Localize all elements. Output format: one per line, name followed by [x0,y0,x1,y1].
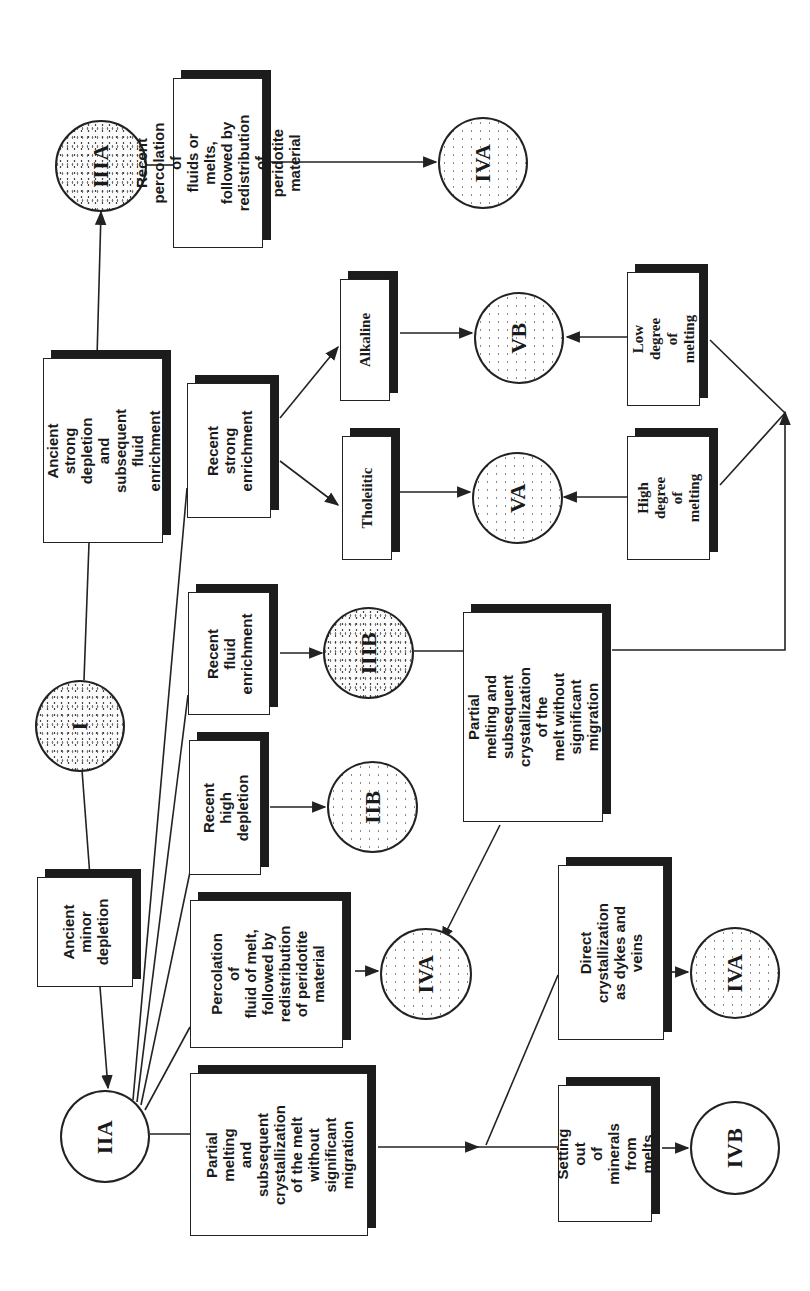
process-label: Percolation of fluid of melt, followed b… [207,926,326,1023]
process-label: High degree of melting [635,474,703,522]
process-recent-percolation: Recent percolation of fluids or melts, f… [173,78,263,248]
state-label: I [67,721,93,730]
process-tholeiitic: Tholeiitic [342,436,392,560]
process-label: Direct crystallization as dykes and vein… [577,902,645,1002]
process-recent-strong-enrichment: Recent strong enrichment [187,383,271,518]
state-node-IIA: IIA [60,1090,150,1183]
process-label: Ancient minor depletion [60,899,111,966]
state-label: IIIB [356,632,382,674]
peridotite-evolution-diagram: IIIA IVA I VB VA IIIB IIB IVA IVA IIA IV… [0,0,810,1291]
state-node-IVA-bottom: IVA [690,927,780,1019]
process-label: Ancient strong depletion and subsequent … [44,408,163,492]
process-label: Recent fluid enrichment [204,613,255,694]
state-node-IVA-mid: IVA [380,928,472,1020]
process-label: Recent percolation of fluids or melts, f… [133,115,303,212]
process-ancient-strong-depletion: Ancient strong depletion and subsequent … [43,358,163,543]
state-label: IIA [92,1119,118,1154]
state-label: VA [505,483,531,513]
state-label: IVB [722,1128,748,1169]
process-setting-out-minerals: Setting out of minerals from melts [558,1085,652,1222]
process-label: Partial melting and subsequent crystalli… [203,1104,356,1204]
state-label: IVA [413,954,439,993]
process-recent-fluid-enrichment: Recent fluid enrichment [188,592,270,715]
state-node-IIIB: IIIB [323,607,414,699]
process-ancient-minor-depletion: Ancient minor depletion [37,877,133,987]
process-percolation-fluid-melt: Percolation of fluid of melt, followed b… [190,900,343,1048]
state-label: IVA [722,953,748,992]
process-direct-crystallization: Direct crystallization as dykes and vein… [558,865,664,1040]
process-label: Low degree of melting [630,315,698,363]
process-recent-high-depletion: Recent high depletion [189,740,261,875]
process-label: Recent high depletion [200,774,251,841]
state-label: IIB [360,790,386,823]
state-label: IIIA [88,144,114,188]
process-label: Recent strong enrichment [204,410,255,491]
state-label: IVA [470,143,496,182]
process-high-degree-melting: High degree of melting [627,436,710,560]
process-partial-melting-center: Partial melting and subsequent crystalli… [463,612,603,822]
process-label: Setting out of minerals from melts [554,1123,656,1185]
state-node-VB: VB [474,292,564,384]
process-label: Alkaline [357,313,374,367]
process-low-degree-melting: Low degree of melting [627,272,700,406]
process-label: Tholeiitic [359,468,376,529]
state-node-IVB: IVB [690,1101,780,1195]
state-node-I: I [35,680,125,772]
state-label: VB [506,322,532,354]
state-node-IVA-top: IVA [438,117,528,209]
process-label: Partial melting and subsequent crystalli… [465,667,601,767]
state-node-IIB: IIB [327,761,418,853]
process-alkaline: Alkaline [340,279,390,401]
state-node-VA: VA [472,452,563,544]
process-partial-melting-left: Partial melting and subsequent crystalli… [190,1073,368,1236]
